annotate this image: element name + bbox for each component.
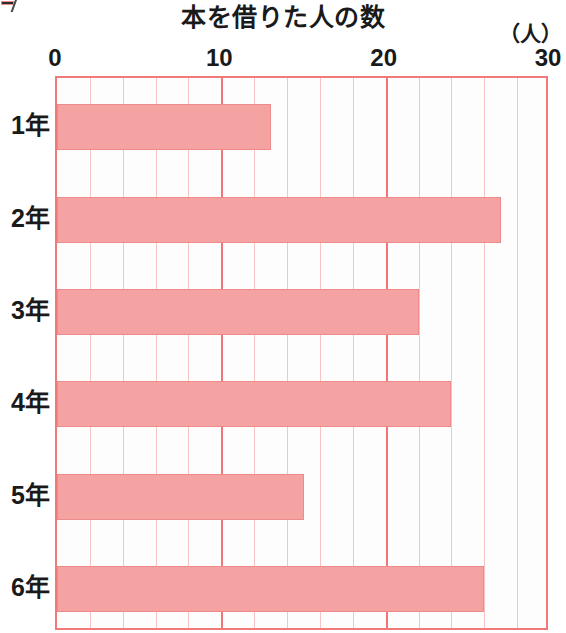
x-tick-label-0: 0	[48, 44, 61, 71]
bar-6年	[57, 566, 484, 612]
y-axis-label-1年: 1年	[11, 111, 50, 139]
bar-1年	[57, 104, 271, 150]
unit-label: （人）	[499, 22, 562, 46]
x-tick-label-10: 10	[206, 44, 233, 71]
y-axis-label-4年: 4年	[11, 388, 50, 416]
y-axis-category-labels: 1年2年3年4年5年6年	[0, 76, 55, 630]
plot-area	[55, 76, 548, 630]
bar-5年	[57, 474, 304, 520]
bar-4年	[57, 381, 451, 427]
x-tick-label-30: 30	[535, 44, 562, 71]
x-tick-label-20: 20	[370, 44, 397, 71]
y-axis-label-6年: 6年	[11, 573, 50, 601]
bar-3年	[57, 289, 419, 335]
y-axis-label-5年: 5年	[11, 481, 50, 509]
chart-title: 本を借りた人の数	[0, 2, 566, 32]
y-axis-label-3年: 3年	[11, 296, 50, 324]
x-axis-tick-labels: 0102030	[0, 44, 566, 72]
y-axis-label-2年: 2年	[11, 204, 50, 232]
bars-layer	[57, 78, 546, 628]
bar-2年	[57, 197, 501, 243]
